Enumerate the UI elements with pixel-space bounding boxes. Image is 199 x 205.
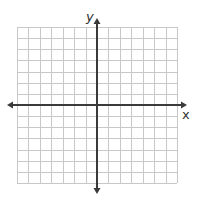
y-axis-up-arrow-icon [94,18,101,24]
x-axis-left-arrow-icon [7,102,13,109]
y-axis-down-arrow-icon [94,188,101,194]
coordinate-grid [0,0,199,205]
x-axis-label: x [182,108,190,121]
y-axis-label: y [86,10,94,23]
